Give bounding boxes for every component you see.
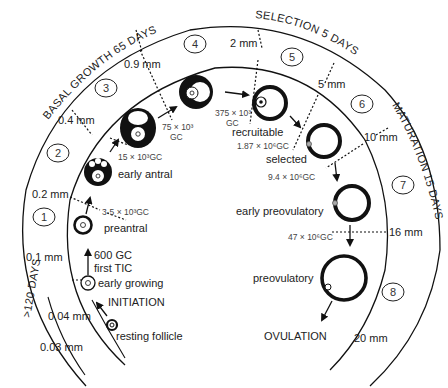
early-preovulatory-follicle-icon [333,186,370,220]
gc-3-5e3-label: 3·5 × 10³GC [102,207,149,217]
size-0-4mm: 0.4 mm [58,114,95,126]
early-growing-follicle-icon [81,276,95,290]
stage4-follicle-icon [179,75,213,109]
gc-47e6-label: 47 × 10⁶GC [288,232,333,242]
phase-selection-label: SELECTION 5 DAYS [255,8,361,57]
stage-5: 5 [289,51,295,63]
size-0-03mm: 0.03 mm [40,341,83,353]
stage-7: 7 [400,179,406,191]
gc-15e3-label: 15 × 10³GC [118,152,162,162]
size-10mm: 10 mm [364,131,398,143]
early-growing-label: early growing [98,277,163,289]
gc-1-87e6-label: 1.87 × 10⁶GC [237,141,289,151]
preovulatory-follicle-icon [322,256,366,300]
size-5mm: 5 mm [318,78,346,90]
stage-2: 2 [55,147,61,159]
size-0-04mm: 0.04 mm [48,310,91,322]
antral-follicle-icon [120,108,156,148]
phase-maturation-label: MATURATION 15 DAYS [390,100,445,221]
innermost-arc [48,297,85,375]
first-tic-label: first TIC [94,262,132,274]
gc-75e3-unit: GC [170,132,183,142]
size-16mm: 16 mm [389,226,423,238]
stage-3: 3 [103,82,109,94]
preantral-follicle-icon [75,217,92,234]
phase-basal-label: BASAL GROWTH 65 DAYS [40,23,158,121]
early-preovulatory-label: early preovulatory [236,205,324,217]
stage-6: 6 [359,98,365,110]
early-antral-label: early antral [118,168,172,180]
preantral-label: preantral [104,222,147,234]
initiation-label: INITIATION [108,296,165,308]
resting-follicle-icon [107,320,117,330]
selected-follicle-icon [307,125,341,157]
selected-label: selected [266,153,307,165]
early-antral-follicle-icon [84,158,112,186]
gc-9-4e6-label: 9.4 × 10⁶GC [268,172,315,182]
gc-375e3-label: 375 × 10³ [215,108,251,118]
size-2mm: 2 mm [230,37,258,49]
resting-follicle-label: resting follicle [116,330,183,342]
size-0-1mm: 0.1 mm [26,251,63,263]
recruitable-follicle-icon [254,87,286,119]
size-0-2mm: 0.2 mm [32,188,69,200]
follicle-development-diagram: BASAL GROWTH 65 DAYS SELECTION 5 DAYS MA… [0,0,448,388]
stage-1: 1 [41,211,47,223]
size-0-9mm: 0.9 mm [124,58,161,70]
stage-4: 4 [192,38,198,50]
ovulation-label: OVULATION [264,330,327,342]
preovulatory-label: preovulatory [253,272,314,284]
gc-75e3-label: 75 × 10³ [162,122,194,132]
size-20mm: 20 mm [354,332,388,344]
phase-early-label: >120 DAYS [20,257,42,318]
stage-8: 8 [390,286,396,298]
recruitable-label: recruitable [232,126,283,138]
gc-600-label: 600 GC [94,249,132,261]
